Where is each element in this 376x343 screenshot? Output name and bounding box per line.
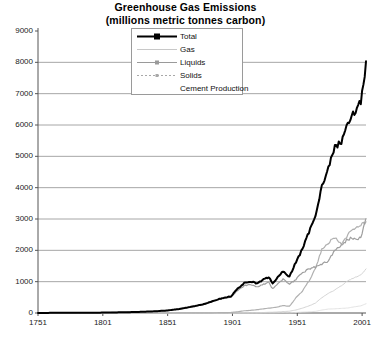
legend-no-sample (135, 82, 179, 95)
legend-label: Total (180, 31, 197, 42)
y-tick-label: 9000 (0, 27, 33, 35)
x-tick-label: 2001 (342, 319, 376, 327)
legend-thin-line (135, 43, 179, 56)
series-line-solids (38, 219, 366, 313)
legend-item-cement-production[interactable]: Cement Production (132, 82, 244, 95)
y-tick-label: 7000 (0, 90, 33, 98)
series-line-liquids (38, 222, 366, 313)
x-tick-label: 1751 (18, 319, 58, 327)
legend-item-solids[interactable]: Solids (132, 69, 244, 82)
y-tick-label: 4000 (0, 184, 33, 192)
y-tick-label: 0 (0, 309, 33, 317)
legend-item-gas[interactable]: Gas (132, 43, 244, 56)
series-line-total (38, 61, 366, 313)
y-tick-label: 2000 (0, 246, 33, 254)
legend-line-with-dot-marker (135, 56, 179, 69)
x-tick-label: 1801 (83, 319, 123, 327)
y-tick-label: 6000 (0, 121, 33, 129)
x-tick-label: 1951 (277, 319, 317, 327)
legend-label: Solids (180, 70, 202, 81)
y-tick-label: 3000 (0, 215, 33, 223)
y-tick-label: 8000 (0, 58, 33, 66)
legend-item-liquids[interactable]: Liquids (132, 56, 244, 69)
legend-item-total[interactable]: Total (132, 30, 244, 43)
legend-label: Liquids (180, 57, 205, 68)
series-line-gas (38, 269, 366, 313)
x-tick-label: 1901 (212, 319, 252, 327)
y-tick-label: 1000 (0, 278, 33, 286)
legend-label: Cement Production (180, 83, 248, 94)
legend-line-with-square-marker (135, 30, 179, 43)
legend-dotted-line-with-marker (135, 69, 179, 82)
legend-label: Gas (180, 44, 195, 55)
chart-legend: TotalGasLiquidsSolidsCement Production (131, 28, 243, 95)
x-tick-label: 1851 (148, 319, 188, 327)
y-tick-label: 5000 (0, 152, 33, 160)
